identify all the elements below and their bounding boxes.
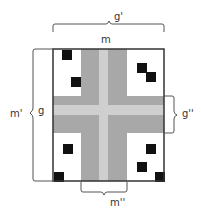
square-marker [71,77,81,87]
square-marker [137,63,147,73]
label-g: g [38,105,44,116]
horizontal-light-strip [53,105,164,115]
cross-diagram: g' m m' g g'' m'' [0,0,201,216]
label-m-prime: m' [10,108,23,119]
right-brace [164,96,177,133]
square-marker [63,144,73,154]
bottom-brace [81,182,127,195]
label-m-double-prime: m'' [110,197,125,208]
label-g-double-prime: g'' [182,108,194,119]
top-brace [53,21,164,32]
square-marker [137,162,147,172]
label-g-prime: g' [114,11,123,22]
square-marker [146,144,156,154]
square-marker [62,50,72,60]
square-marker [146,72,156,82]
label-m: m [101,34,111,45]
